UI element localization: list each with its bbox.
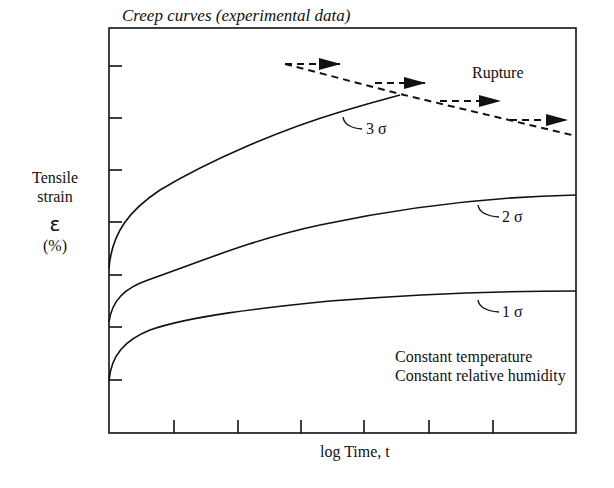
label-1-sigma: 1 σ [502,303,523,321]
y-axis-label-line1: Tensile [32,169,78,186]
label-3-sigma: 3 σ [366,120,387,138]
chart-title: Creep curves (experimental data) [122,6,350,26]
note-temperature: Constant temperature [395,348,532,365]
x-axis-ticks [174,420,493,433]
rupture-line [285,64,576,136]
epsilon-symbol: ε [20,212,90,236]
rupture-arrows [285,64,567,120]
sigma-leaders [343,117,499,312]
y-axis-unit: (%) [43,237,67,254]
label-2-sigma: 2 σ [502,208,523,226]
rupture-label: Rupture [472,64,524,82]
conditions-note: Constant temperature Constant relative h… [395,347,566,385]
y-axis-label-line2: strain [37,188,73,205]
y-axis-ticks [109,66,122,380]
y-axis-label: Tensile strain ε (%) [20,168,90,255]
note-humidity: Constant relative humidity [395,367,566,384]
x-axis-label: log Time, t [320,443,390,461]
